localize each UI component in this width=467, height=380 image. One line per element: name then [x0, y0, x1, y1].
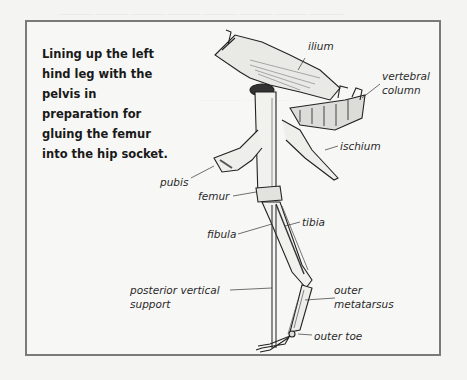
pubis-bone	[214, 130, 262, 172]
label-vertebral-column-2: column	[382, 84, 421, 96]
label-fibula: fibula	[207, 228, 236, 240]
label-pubis: pubis	[160, 176, 188, 188]
label-posterior-support-2: support	[130, 298, 170, 310]
tibia-bone	[262, 202, 312, 288]
label-posterior-support-1: posterior vertical	[130, 284, 220, 296]
label-femur: femur	[198, 190, 229, 202]
label-vertebral-column-1: vertebral	[382, 70, 430, 82]
label-ilium: ilium	[308, 40, 334, 52]
label-ischium: ischium	[340, 140, 381, 152]
outer-toe-bone	[256, 332, 292, 352]
skeleton-leg-illustration	[0, 0, 467, 380]
outer-metatarsus-bone	[290, 285, 312, 332]
label-tibia: tibia	[302, 216, 325, 228]
vertebral-column-bone	[290, 95, 365, 130]
label-outer-toe: outer toe	[314, 330, 362, 342]
label-outer-metatarsus-2: metatarsus	[334, 298, 394, 310]
label-outer-metatarsus-1: outer	[334, 284, 362, 296]
